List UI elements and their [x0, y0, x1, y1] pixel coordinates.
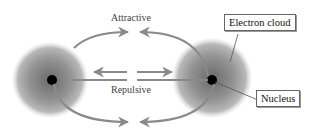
nucleus-left — [47, 75, 57, 85]
right-atom — [172, 38, 252, 118]
electron-cloud-label: Electron cloud — [224, 14, 296, 31]
nucleus-label: Nucleus — [256, 90, 300, 107]
repulsive-label: Repulsive — [111, 84, 151, 95]
nucleus-right — [207, 75, 217, 85]
attractive-label: Attractive — [111, 12, 151, 23]
